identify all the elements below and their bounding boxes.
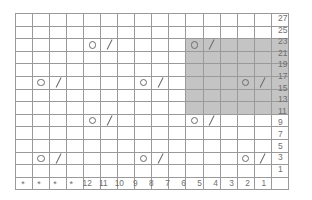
stitch-cell bbox=[237, 165, 254, 178]
stitch-cell bbox=[220, 152, 237, 165]
stitch-cell bbox=[67, 114, 84, 127]
stitch-cell bbox=[220, 139, 237, 152]
stitch-cell bbox=[135, 64, 152, 77]
stitch-cell bbox=[186, 26, 203, 39]
row-label: 7 bbox=[278, 129, 308, 141]
decrease-icon bbox=[152, 153, 168, 165]
stitch-cell bbox=[220, 102, 237, 115]
stitch-cell bbox=[16, 76, 33, 89]
stitch-cell bbox=[118, 14, 135, 27]
stitch-row bbox=[16, 139, 289, 152]
stitch-cell bbox=[50, 51, 67, 64]
yarn-over-icon bbox=[33, 153, 49, 165]
row-label: 21 bbox=[278, 48, 308, 60]
stitch-cell bbox=[16, 152, 33, 165]
stitch-cell bbox=[50, 165, 67, 178]
stitch-cell bbox=[135, 51, 152, 64]
stitch-cell bbox=[84, 76, 101, 89]
stitch-cell bbox=[84, 152, 101, 165]
stitch-cell bbox=[118, 89, 135, 102]
stitch-cell bbox=[118, 127, 135, 140]
stitch-cell bbox=[203, 39, 220, 52]
stitch-cell bbox=[101, 14, 118, 27]
stitch-cell bbox=[203, 26, 220, 39]
stitch-cell bbox=[152, 127, 169, 140]
stitch-cell bbox=[135, 165, 152, 178]
stitch-cell bbox=[169, 152, 186, 165]
row-label: 11 bbox=[278, 106, 308, 118]
stitch-row bbox=[16, 39, 289, 52]
stitch-cell bbox=[203, 64, 220, 77]
stitch-cell bbox=[186, 76, 203, 89]
stitch-row bbox=[16, 165, 289, 178]
stitch-cell bbox=[220, 76, 237, 89]
stitch-cell bbox=[254, 14, 271, 27]
column-label: * bbox=[47, 178, 63, 190]
yarn-over-icon bbox=[186, 39, 202, 51]
stitch-cell bbox=[67, 14, 84, 27]
row-label-column: 27252321191715131197531 bbox=[278, 13, 308, 175]
stitch-cell bbox=[152, 39, 169, 52]
stitch-cell bbox=[67, 64, 84, 77]
stitch-cell bbox=[67, 165, 84, 178]
stitch-cell bbox=[186, 114, 203, 127]
column-label: * bbox=[15, 178, 31, 190]
column-label: 5 bbox=[192, 178, 208, 190]
yarn-over-icon bbox=[84, 39, 100, 51]
stitch-cell bbox=[101, 26, 118, 39]
yarn-over-icon bbox=[84, 115, 100, 127]
stitch-cell bbox=[254, 89, 271, 102]
row-label: 19 bbox=[278, 59, 308, 71]
stitch-row bbox=[16, 89, 289, 102]
stitch-cell bbox=[33, 152, 50, 165]
stitch-cell bbox=[220, 39, 237, 52]
stitch-cell bbox=[118, 102, 135, 115]
stitch-cell bbox=[16, 165, 33, 178]
stitch-row bbox=[16, 76, 289, 89]
stitch-cell bbox=[203, 102, 220, 115]
decrease-icon bbox=[255, 153, 271, 165]
stitch-cell bbox=[101, 139, 118, 152]
stitch-cell bbox=[33, 51, 50, 64]
stitch-cell bbox=[237, 76, 254, 89]
stitch-cell bbox=[50, 64, 67, 77]
stitch-cell bbox=[84, 127, 101, 140]
stitch-cell bbox=[271, 177, 288, 190]
stitch-cell bbox=[254, 76, 271, 89]
stitch-cell bbox=[169, 165, 186, 178]
column-label: 4 bbox=[208, 178, 224, 190]
stitch-cell bbox=[203, 114, 220, 127]
stitch-cell bbox=[16, 64, 33, 77]
row-label: 17 bbox=[278, 71, 308, 83]
stitch-cell bbox=[101, 114, 118, 127]
stitch-cell bbox=[50, 26, 67, 39]
stitch-cell bbox=[84, 102, 101, 115]
row-label: 27 bbox=[278, 13, 308, 25]
stitch-cell bbox=[152, 152, 169, 165]
column-label: 3 bbox=[224, 178, 240, 190]
stitch-cell bbox=[169, 51, 186, 64]
column-label: * bbox=[63, 178, 79, 190]
decrease-icon bbox=[101, 39, 117, 51]
stitch-cell bbox=[186, 64, 203, 77]
stitch-cell bbox=[220, 51, 237, 64]
yarn-over-icon bbox=[186, 115, 202, 127]
stitch-cell bbox=[186, 51, 203, 64]
row-label: 1 bbox=[278, 164, 308, 176]
stitch-cell bbox=[135, 26, 152, 39]
stitch-cell bbox=[50, 89, 67, 102]
stitch-cell bbox=[33, 39, 50, 52]
stitch-cell bbox=[135, 127, 152, 140]
stitch-row bbox=[16, 127, 289, 140]
stitch-cell bbox=[203, 152, 220, 165]
column-label: 1 bbox=[256, 178, 272, 190]
stitch-cell bbox=[101, 64, 118, 77]
stitch-cell bbox=[186, 152, 203, 165]
stitch-cell bbox=[16, 139, 33, 152]
knitting-chart: 27252321191715131197531 ****121110987654… bbox=[0, 0, 312, 200]
stitch-cell bbox=[50, 76, 67, 89]
stitch-cell bbox=[237, 89, 254, 102]
stitch-grid bbox=[15, 13, 289, 190]
stitch-cell bbox=[203, 89, 220, 102]
stitch-grid-body bbox=[16, 14, 289, 190]
